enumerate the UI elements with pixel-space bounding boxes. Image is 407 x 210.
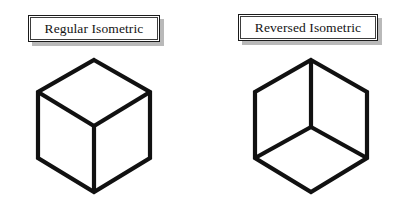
label-card-regular-isometric: Regular Isometric: [28, 15, 160, 42]
cube-stage-regular: [0, 50, 203, 205]
reversed-isometric-cube: [204, 50, 407, 205]
panel-reversed-isometric: Reversed Isometric: [204, 0, 407, 210]
cube-stage-reversed: [204, 50, 407, 205]
label-reversed-isometric: Reversed Isometric: [255, 21, 361, 35]
isometric-comparison-figure: Regular Isometric Reversed Isometric: [0, 0, 407, 210]
label-card-reversed-isometric: Reversed Isometric: [238, 14, 378, 41]
panel-regular-isometric: Regular Isometric: [0, 0, 203, 210]
regular-isometric-cube: [0, 50, 203, 205]
label-regular-isometric: Regular Isometric: [45, 22, 144, 36]
